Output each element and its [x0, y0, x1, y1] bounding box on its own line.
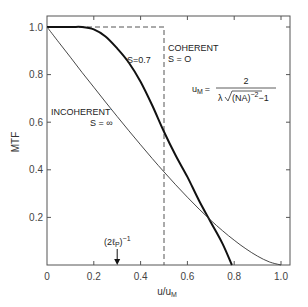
y-tick-label: 0.2 — [29, 212, 43, 223]
incoherent-label: INCOHERENT — [51, 107, 111, 117]
y-tick-label: 0.4 — [29, 164, 43, 175]
cutoff-frequency-formula: uM= 2 λ (NA)−2−1 — [192, 76, 276, 103]
svg-text:(2ℓP)−1: (2ℓP)−1 — [104, 235, 131, 248]
svg-text:λ: λ — [218, 93, 223, 103]
y-tick-label: 1.0 — [29, 22, 43, 33]
y-tick-label: 0.6 — [29, 117, 43, 128]
y-tick-labels: 0.20.40.60.81.0 — [29, 22, 43, 223]
svg-text:(NA)−2−1: (NA)−2−1 — [232, 91, 269, 103]
x-tick-label: 0.6 — [180, 271, 194, 282]
y-tick-label: 0.8 — [29, 69, 43, 80]
svg-text:2: 2 — [243, 76, 248, 86]
mtf-chart: 00.20.40.60.81.0 0.20.40.60.81.0 MTF u/u… — [0, 0, 308, 307]
y-axis-label: MTF — [10, 132, 21, 153]
coherent-label: COHERENT — [168, 43, 219, 53]
x-tick-label: 1.0 — [274, 271, 288, 282]
partial-coherence-label: S=0.7 — [127, 55, 151, 65]
x-tick-label: 0.2 — [87, 271, 101, 282]
coherent-s-label: S = O — [168, 54, 191, 64]
x-tick-label: 0 — [44, 271, 50, 282]
x-axis-label: u/uM — [157, 286, 177, 298]
spatial-frequency-marker: (2ℓP)−1 — [104, 235, 131, 265]
x-tick-label: 0.8 — [227, 271, 241, 282]
x-tick-label: 0.4 — [134, 271, 148, 282]
svg-text:uM=: uM= — [192, 84, 210, 95]
x-tick-labels: 00.20.40.60.81.0 — [44, 271, 288, 282]
incoherent-s-label: S = ∞ — [90, 118, 113, 128]
